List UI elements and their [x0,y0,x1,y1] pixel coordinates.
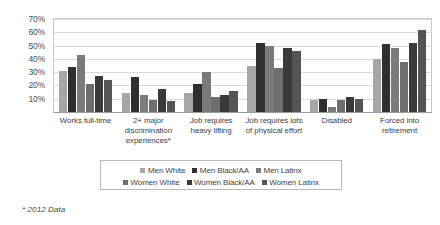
legend-swatch-icon [192,168,197,173]
bar [274,68,282,112]
bar [158,89,166,112]
y-tick-label: 40% [29,54,45,64]
legend-swatch-icon [262,180,267,185]
bar [292,51,300,112]
bar [337,100,345,112]
legend-item[interactable]: Women White [123,178,180,187]
x-tick-label: Job requires lots of physical effort [242,116,305,154]
bar [418,30,426,112]
x-tick-label: Works full-time [54,116,117,154]
legend-swatch-icon [187,180,192,185]
bar [283,48,291,112]
x-tick-label: 2+ major discrimination experiences* [117,116,180,154]
bar [193,84,201,112]
bar [77,55,85,112]
bar [319,99,327,112]
y-tick-label: 10% [29,94,45,104]
bar [310,100,318,112]
y-tick-label: 20% [29,80,45,90]
bar [400,62,408,112]
legend-swatch-icon [140,168,145,173]
bar [409,43,417,112]
bar-group [242,19,305,112]
y-tick-label: 30% [29,67,45,77]
legend-label: Men White [148,166,185,175]
legend-item[interactable]: Women Latinx [262,178,319,187]
bar-chart: 70%60%50%40%30%20%10% Works full-time2+ … [0,0,440,225]
bar [220,95,228,112]
chart-legend: Men WhiteMen Black/AAMen Latinx Women Wh… [100,160,342,190]
legend-label: Women Black/AA [194,178,255,187]
legend-item[interactable]: Men Black/AA [192,166,249,175]
bar [122,93,130,112]
bar-groups [54,19,431,112]
legend-label: Men Black/AA [200,166,249,175]
bar [104,80,112,112]
bar [328,107,336,112]
legend-label: Women Latinx [269,178,319,187]
bar [131,77,139,112]
bar [346,97,354,112]
y-tick-label: 50% [29,41,45,51]
x-tick-label: Disabled [305,116,368,154]
legend-item[interactable]: Men White [140,166,185,175]
legend-row-men: Men WhiteMen Black/AAMen Latinx [101,164,341,176]
bar [140,95,148,112]
bar [355,99,363,112]
bar-group [54,19,117,112]
bar-group [117,19,180,112]
bar [211,97,219,112]
bar [229,91,237,112]
bar [68,67,76,112]
footnote: * 2012 Data [22,205,65,214]
bar [373,59,381,112]
bar [382,44,390,112]
bar [95,76,103,112]
bar [265,46,273,112]
legend-item[interactable]: Men Latinx [256,166,302,175]
bar [86,84,94,112]
x-tick-label: Forced into retirement [368,116,431,154]
y-axis-labels: 70%60%50%40%30%20%10% [0,18,49,113]
legend-item[interactable]: Women Black/AA [187,178,255,187]
legend-row-women: Women WhiteWomen Black/AAWomen Latinx [101,176,341,188]
y-tick-label: 70% [29,14,45,24]
bar [184,93,192,112]
bar [247,66,255,113]
bar [149,100,157,112]
legend-swatch-icon [256,168,261,173]
bar-group [368,19,431,112]
x-axis-category-labels: Works full-time2+ major discrimination e… [54,116,431,154]
bar [391,48,399,112]
legend-swatch-icon [123,180,128,185]
x-tick-label: Job requires heavy lifting [180,116,243,154]
y-tick-label: 60% [29,27,45,37]
bar [202,72,210,112]
bar [256,43,264,112]
bar [167,101,175,112]
legend-label: Men Latinx [263,166,301,175]
bar-group [180,19,243,112]
bar-group [305,19,368,112]
bar [59,71,67,112]
legend-label: Women White [131,178,180,187]
